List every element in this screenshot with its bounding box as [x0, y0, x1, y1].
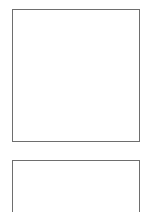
empty-panel-top — [12, 9, 140, 142]
empty-panel-bottom — [12, 160, 140, 212]
